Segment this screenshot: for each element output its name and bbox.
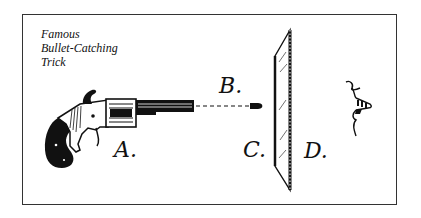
glass-pane-icon (275, 30, 290, 190)
mouth-profile-icon (346, 81, 371, 136)
bullet-trick-drawing (0, 0, 421, 218)
label-c: C. (243, 139, 266, 161)
label-d: D. (304, 140, 328, 162)
label-a: A. (114, 139, 137, 161)
bullet-icon (250, 103, 262, 109)
label-b: B. (219, 75, 242, 97)
